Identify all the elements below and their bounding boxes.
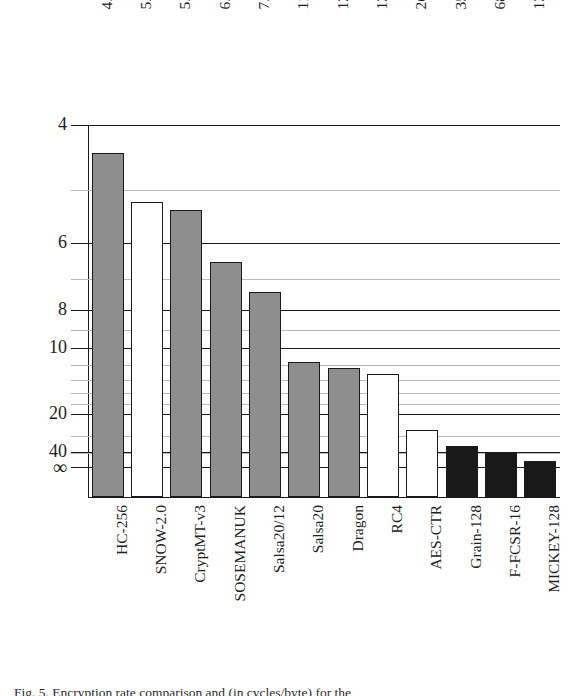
baseline (88, 497, 560, 498)
gridline-minor (88, 190, 560, 191)
bar-value-label-wrap: 13.12 (389, 8, 390, 9)
bar-value-label: 68.05 (492, 0, 508, 9)
y-axis-tick-minor (71, 436, 88, 437)
gridline-major (88, 125, 560, 126)
category-label-wrap: AES-CTR (428, 505, 429, 506)
category-label-wrap: HC-256 (114, 505, 115, 506)
y-axis-tick-label: 10 (20, 338, 67, 356)
bar-value-label: 4.40 (98, 0, 114, 9)
category-label: Salsa20/12 (271, 505, 287, 573)
y-axis-tick-minor (71, 453, 88, 454)
bar (406, 430, 438, 497)
bar (170, 210, 202, 497)
y-axis-tick-label: 6 (20, 233, 67, 251)
bar (524, 461, 556, 497)
category-label-wrap: SNOW-2.0 (153, 505, 154, 506)
bar-value-label: 11.64 (295, 0, 311, 9)
y-axis-tick-minor (71, 380, 88, 381)
y-axis-tick-minor (71, 404, 88, 405)
bar (446, 446, 478, 497)
bar-value-label-wrap: 7.41 (271, 8, 272, 9)
bar-value-label-wrap: 1370.78 (546, 8, 547, 9)
category-label-wrap: SOSEMANUK (232, 505, 233, 506)
figure-caption: Fig. 5. Encryption rate comparison and (… (14, 684, 574, 696)
bar-value-label: 7.41 (256, 0, 272, 9)
category-label-wrap: Salsa20/12 (271, 505, 272, 506)
category-label: RC4 (389, 505, 405, 533)
plot-area (88, 125, 560, 497)
category-label: SNOW-2.0 (153, 505, 169, 574)
y-axis-tick-label: 8 (20, 300, 67, 318)
bar-value-label-wrap: 35.89 (468, 8, 469, 9)
y-axis-tick (71, 467, 88, 468)
y-axis-tick (71, 348, 88, 349)
bar (288, 362, 320, 497)
y-axis-tick-minor (71, 330, 88, 331)
category-label-wrap: CryptMT-v3 (192, 505, 193, 506)
bar-value-label-wrap: 6.52 (232, 8, 233, 9)
y-axis-tick (71, 243, 88, 244)
bar (328, 368, 360, 497)
bar-value-label: 13.12 (374, 0, 390, 9)
bar-value-label-wrap: 26.86 (428, 8, 429, 9)
category-label: SOSEMANUK (232, 505, 248, 601)
y-axis-line (88, 125, 89, 497)
bar (131, 202, 163, 497)
bar (92, 153, 124, 497)
y-axis-tick (71, 125, 88, 126)
bar-value-label: 6.52 (216, 0, 232, 9)
bar-value-label: 5.36 (177, 0, 193, 9)
category-label: Dragon (350, 505, 366, 552)
category-label: Grain-128 (468, 505, 484, 569)
bar-value-label: 35.89 (452, 0, 468, 9)
bar-value-label: 26.86 (413, 0, 429, 9)
category-label-wrap: RC4 (389, 505, 390, 506)
y-axis-tick-label: 4 (20, 115, 67, 133)
y-axis-tick-minor (71, 365, 88, 366)
figure-container: 4.405.215.366.527.4111.6412.3913.1226.86… (0, 0, 587, 696)
bar-value-label-wrap: 5.21 (153, 8, 154, 9)
category-label-wrap: MICKEY-128 (546, 505, 547, 506)
category-label: F-FCSR-16 (507, 505, 523, 577)
bar (485, 453, 517, 497)
category-label: Salsa20 (310, 505, 326, 553)
category-label: AES-CTR (428, 505, 444, 570)
y-axis-tick-label: 20 (20, 404, 67, 422)
bar-value-label-wrap: 11.64 (310, 8, 311, 9)
category-label-wrap: F-FCSR-16 (507, 505, 508, 506)
category-label-wrap: Grain-128 (468, 505, 469, 506)
category-label-wrap: Salsa20 (310, 505, 311, 506)
bar-value-label-wrap: 4.40 (114, 8, 115, 9)
y-axis-tick-minor (71, 393, 88, 394)
y-axis-tick (71, 310, 88, 311)
category-label-wrap: Dragon (350, 505, 351, 506)
bar-value-label: 1370.78 (531, 0, 547, 9)
bar-value-label-wrap: 68.05 (507, 8, 508, 9)
y-axis-tick-minor (71, 279, 88, 280)
y-axis-tick (71, 414, 88, 415)
bar-value-label-wrap: 12.39 (350, 8, 351, 9)
category-label: CryptMT-v3 (192, 505, 208, 583)
category-label: HC-256 (114, 505, 130, 555)
category-label: MICKEY-128 (546, 505, 562, 593)
bar-value-label: 5.21 (138, 0, 154, 9)
y-axis-tick-label: ∞ (20, 457, 67, 477)
bar (367, 374, 399, 497)
bar (249, 292, 281, 497)
y-axis-tick-minor (71, 190, 88, 191)
bar (210, 262, 242, 497)
bar-value-label: 12.39 (334, 0, 350, 9)
bar-value-label-wrap: 5.36 (192, 8, 193, 9)
